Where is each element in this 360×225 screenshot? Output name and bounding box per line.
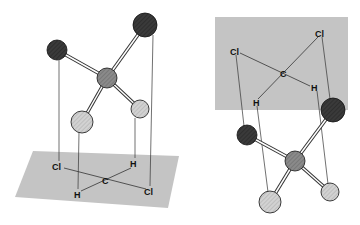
label-cl: Cl — [315, 29, 324, 39]
hydrogen-atom — [71, 111, 93, 133]
label-cl: Cl — [144, 187, 153, 197]
label-h: H — [130, 159, 137, 169]
left-panel: Cl H C H Cl — [15, 13, 179, 208]
label-cl: Cl — [52, 162, 61, 172]
carbon-atom — [97, 68, 117, 88]
chlorine-atom — [133, 13, 157, 37]
projection-plane — [15, 151, 179, 208]
label-cl: Cl — [230, 47, 239, 57]
right-panel: Cl Cl C H H — [215, 17, 348, 213]
projection-plane — [215, 17, 348, 110]
hydrogen-atom — [131, 100, 149, 118]
chlorine-atom — [321, 98, 345, 122]
carbon-atom — [285, 151, 305, 171]
label-c: C — [102, 176, 109, 186]
chlorine-atom — [47, 40, 67, 60]
label-c: C — [280, 69, 287, 79]
label-h: H — [253, 98, 260, 108]
hydrogen-atom — [259, 191, 281, 213]
diagram-canvas: Cl H C H Cl — [0, 0, 360, 225]
label-h: H — [74, 190, 81, 200]
label-h: H — [311, 83, 318, 93]
chlorine-atom — [237, 125, 257, 145]
hydrogen-atom — [321, 183, 339, 201]
